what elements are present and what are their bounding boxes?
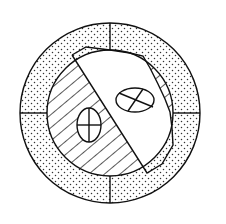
cross-section-diagram bbox=[0, 0, 226, 224]
right-ellipse bbox=[116, 88, 154, 112]
left-ellipse bbox=[77, 108, 101, 142]
